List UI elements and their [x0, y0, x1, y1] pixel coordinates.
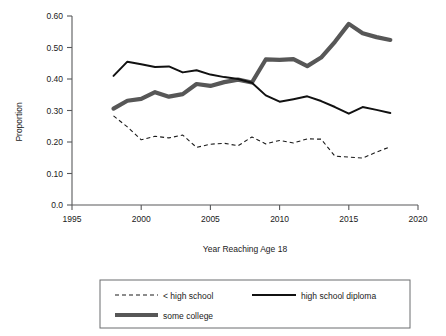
x-tick-label-0: 1995: [63, 214, 82, 224]
y-tick-label-3: 0.30: [46, 106, 63, 116]
legend: < high school high school diploma some c…: [100, 280, 410, 328]
x-axis-ticks: [72, 205, 418, 210]
legend-label-high-school-diploma: high school diploma: [301, 291, 376, 301]
y-axis: 0.0 0.10 0.20 0.30 0.40 0.50 0.60 Propor…: [14, 11, 72, 210]
legend-border: [100, 280, 410, 328]
y-tick-label-4: 0.40: [46, 74, 63, 84]
y-tick-label-1: 0.10: [46, 169, 63, 179]
x-tick-label-4: 2015: [339, 214, 358, 224]
chart-figure: 0.0 0.10 0.20 0.30 0.40 0.50 0.60 Propor…: [0, 0, 446, 336]
x-axis-title: Year Reaching Age 18: [203, 244, 288, 254]
x-tick-label-5: 2020: [409, 214, 428, 224]
plot-series-group: [114, 24, 391, 158]
x-axis: 1995 2000 2005 2010 2015 2020 Year Reach…: [63, 205, 428, 254]
series-line-high-school-diploma: [114, 62, 391, 114]
x-tick-label-2: 2005: [201, 214, 220, 224]
y-tick-label-5: 0.50: [46, 43, 63, 53]
x-tick-label-1: 2000: [132, 214, 151, 224]
y-tick-label-6: 0.60: [46, 11, 63, 21]
y-tick-label-2: 0.20: [46, 137, 63, 147]
x-tick-label-3: 2010: [270, 214, 289, 224]
legend-label-less-than-high-school: < high school: [163, 291, 213, 301]
series-line-less-than-high-school: [114, 116, 391, 158]
y-axis-title: Proportion: [14, 102, 24, 141]
line-chart-svg: 0.0 0.10 0.20 0.30 0.40 0.50 0.60 Propor…: [0, 0, 446, 336]
y-axis-ticks: [67, 16, 72, 205]
y-tick-label-0: 0.0: [51, 200, 63, 210]
legend-label-some-college: some college: [163, 311, 213, 321]
